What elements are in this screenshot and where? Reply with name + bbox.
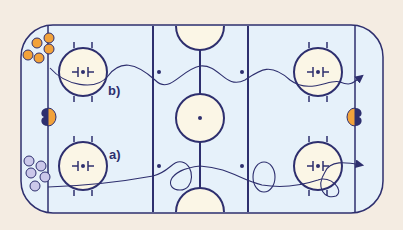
- neutral-dot: [240, 70, 244, 74]
- neutral-dot: [157, 164, 161, 168]
- center-faceoff-dot: [198, 116, 202, 120]
- neutral-dot: [240, 164, 244, 168]
- hockey-rink-diagram: [0, 0, 403, 230]
- drill-label-b: b): [108, 83, 120, 98]
- drill-label-a: a): [109, 147, 121, 162]
- neutral-dot: [157, 70, 161, 74]
